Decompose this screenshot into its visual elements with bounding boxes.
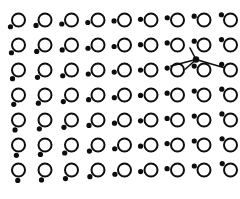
satellite-dot xyxy=(192,163,197,168)
satellite-dot xyxy=(87,174,92,179)
figure-canvas xyxy=(0,0,240,199)
satellite-dot xyxy=(192,64,197,69)
satellite-dot xyxy=(59,21,64,26)
satellite-dot xyxy=(9,50,14,55)
satellite-dot xyxy=(38,152,43,157)
satellite-dot xyxy=(87,148,92,153)
satellite-dot xyxy=(192,138,197,143)
satellite-dot xyxy=(33,23,38,28)
satellite-dot xyxy=(138,144,143,149)
satellite-dot xyxy=(164,166,169,171)
satellite-dot xyxy=(60,47,65,52)
satellite-dot xyxy=(10,76,15,81)
satellite-dot xyxy=(138,17,143,22)
satellite-dot xyxy=(165,40,170,45)
satellite-dot xyxy=(220,161,225,166)
graph-hub-node xyxy=(193,56,200,63)
satellite-dot xyxy=(86,71,91,76)
satellite-dot xyxy=(11,102,16,107)
satellite-dot xyxy=(165,65,170,70)
satellite-dot xyxy=(61,99,66,104)
satellite-dot xyxy=(12,127,17,132)
satellite-dot xyxy=(165,116,170,121)
satellite-dot xyxy=(138,67,143,72)
satellite-dot xyxy=(165,91,170,96)
satellite-dot xyxy=(138,42,143,47)
satellite-dot xyxy=(112,69,117,74)
satellite-dot xyxy=(60,73,65,78)
satellite-dot xyxy=(192,39,197,44)
satellite-dot xyxy=(8,24,13,29)
satellite-dot xyxy=(192,88,197,93)
satellite-dot xyxy=(36,101,41,106)
satellite-dot xyxy=(219,87,224,92)
satellite-dot xyxy=(138,169,143,174)
satellite-dot xyxy=(192,14,197,19)
satellite-dot xyxy=(192,113,197,118)
satellite-dot xyxy=(34,49,39,54)
satellite-dot xyxy=(219,37,224,42)
satellite-dot xyxy=(85,46,90,51)
satellite-dot xyxy=(138,118,143,123)
satellite-dot xyxy=(35,75,40,80)
satellite-dot xyxy=(219,111,224,116)
satellite-dot xyxy=(165,141,170,146)
satellite-dot xyxy=(15,178,20,183)
satellite-dot xyxy=(138,93,143,98)
lattice-plot xyxy=(0,0,240,199)
satellite-dot xyxy=(111,18,116,23)
satellite-dot xyxy=(112,172,117,177)
satellite-dot xyxy=(86,123,91,128)
satellite-dot xyxy=(112,44,117,49)
satellite-dot xyxy=(61,125,66,130)
satellite-dot xyxy=(86,97,91,102)
satellite-dot xyxy=(37,126,42,131)
satellite-dot xyxy=(219,12,224,17)
satellite-dot xyxy=(165,15,170,20)
satellite-dot xyxy=(112,146,117,151)
satellite-dot xyxy=(219,136,224,141)
satellite-dot xyxy=(14,153,19,158)
satellite-dot xyxy=(112,121,117,126)
satellite-dot xyxy=(62,150,67,155)
satellite-dot xyxy=(85,20,90,25)
satellite-dot xyxy=(63,176,68,181)
satellite-dot xyxy=(112,95,117,100)
satellite-dot xyxy=(39,177,44,182)
